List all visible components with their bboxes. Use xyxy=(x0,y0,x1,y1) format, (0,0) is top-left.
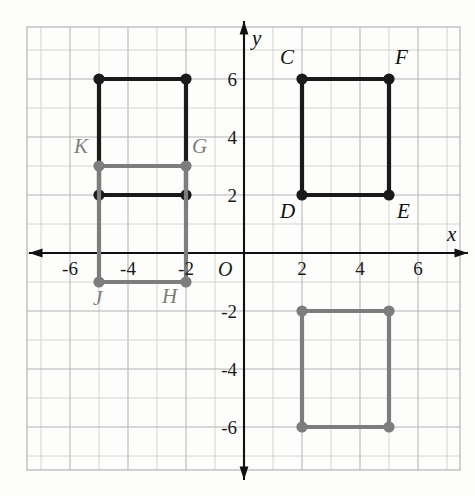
y-tick-label: 6 xyxy=(228,70,238,89)
y-axis-arrow-down xyxy=(240,467,249,481)
x-tick-label: 2 xyxy=(297,259,307,278)
point-label-H: H xyxy=(162,286,177,307)
y-axis-name: y xyxy=(252,28,261,49)
y-tick-label: -2 xyxy=(221,302,237,321)
y-tick-label: -4 xyxy=(221,360,237,379)
x-axis-name: x xyxy=(447,224,456,245)
x-tick-label: -6 xyxy=(62,259,78,278)
point-label-K: K xyxy=(74,136,88,157)
vertex-point xyxy=(180,73,191,84)
vertex-point xyxy=(296,189,307,200)
point-label-G: G xyxy=(192,136,207,157)
x-tick-label: 4 xyxy=(355,259,365,278)
x-tick-label: -4 xyxy=(120,259,136,278)
point-label-J: J xyxy=(93,288,102,309)
point-label-D: D xyxy=(280,201,295,222)
x-tick-label: -2 xyxy=(178,259,194,278)
vertex-point xyxy=(383,421,394,432)
vertex-point xyxy=(383,73,394,84)
vertex-point xyxy=(296,73,307,84)
coordinate-plane-figure: -6-4-2246642-2-4-6OxyCFDEKGJH xyxy=(0,0,475,496)
y-tick-label: 4 xyxy=(228,128,238,147)
x-tick-label: 6 xyxy=(413,259,423,278)
y-tick-label: 2 xyxy=(228,186,238,205)
vertex-point xyxy=(93,73,104,84)
vertex-point xyxy=(93,160,104,171)
vertex-point xyxy=(383,189,394,200)
vertex-point xyxy=(296,305,307,316)
vertex-point xyxy=(383,305,394,316)
point-label-F: F xyxy=(395,47,408,68)
x-axis-arrow-right xyxy=(455,249,469,258)
origin-label: O xyxy=(218,259,232,279)
vertex-point xyxy=(296,421,307,432)
coordinate-grid-svg xyxy=(0,0,475,496)
point-label-E: E xyxy=(397,201,410,222)
y-tick-label: -6 xyxy=(221,418,237,437)
vertex-point xyxy=(180,160,191,171)
point-label-C: C xyxy=(280,47,294,68)
